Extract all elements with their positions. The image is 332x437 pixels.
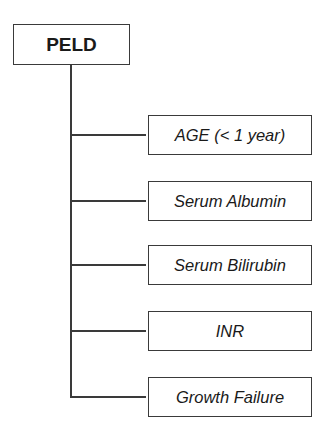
trunk-connector (70, 64, 72, 398)
child-node-serum-bilirubin: Serum Bilirubin (148, 245, 312, 285)
child-node-inr: INR (148, 311, 312, 351)
root-node-label: PELD (46, 34, 97, 56)
branch-connector-growth-failure (70, 396, 146, 398)
child-node-label: Growth Failure (176, 388, 284, 407)
child-node-label: INR (216, 322, 244, 341)
branch-connector-inr (70, 330, 146, 332)
branch-connector-age (70, 134, 146, 136)
child-node-label: Serum Bilirubin (174, 256, 286, 275)
branch-connector-serum-bilirubin (70, 264, 146, 266)
child-node-serum-albumin: Serum Albumin (148, 181, 312, 221)
branch-connector-serum-albumin (70, 200, 146, 202)
child-node-label: Serum Albumin (174, 192, 286, 211)
root-node-peld: PELD (13, 24, 130, 65)
child-node-label: AGE (< 1 year) (175, 126, 286, 145)
child-node-age: AGE (< 1 year) (148, 115, 312, 155)
child-node-growth-failure: Growth Failure (148, 377, 312, 417)
